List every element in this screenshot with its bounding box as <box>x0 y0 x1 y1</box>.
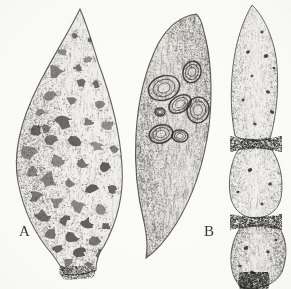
figure-plate: A B <box>0 0 291 289</box>
specimen-illustration-canvas <box>0 0 291 289</box>
specimen-label-a: A <box>19 224 30 239</box>
specimen-label-b: B <box>204 224 215 239</box>
